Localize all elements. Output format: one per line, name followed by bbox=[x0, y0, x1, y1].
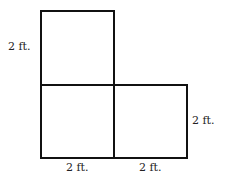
square-bottom-right bbox=[113, 84, 188, 159]
square-top-left bbox=[40, 10, 115, 86]
label-bottom-left: 2 ft. bbox=[66, 161, 88, 174]
label-right-side: 2 ft. bbox=[192, 114, 214, 127]
label-left-side: 2 ft. bbox=[8, 40, 30, 53]
square-bottom-left bbox=[40, 84, 115, 159]
label-bottom-right: 2 ft. bbox=[139, 161, 161, 174]
